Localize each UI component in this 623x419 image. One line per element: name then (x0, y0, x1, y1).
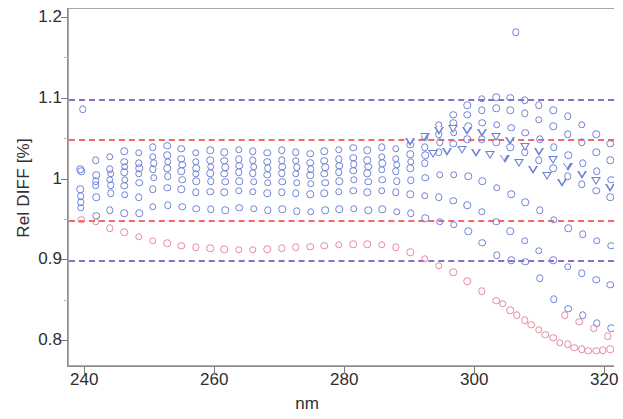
data-point-blue-circles (335, 146, 343, 154)
data-point-blue-circles (578, 181, 586, 189)
data-point-blue-circles (393, 208, 401, 216)
data-point-blue-triangles (477, 129, 487, 137)
data-point-blue-circles (121, 210, 129, 218)
data-point-blue-circles (306, 150, 314, 158)
y-minor-tick-mark (64, 219, 68, 220)
data-point-blue-circles (364, 169, 372, 177)
data-point-blue-circles (535, 156, 543, 164)
y-minor-tick-mark (64, 57, 68, 58)
data-point-blue-circles (464, 101, 472, 109)
data-point-blue-circles (236, 204, 244, 212)
data-point-red-circles (556, 339, 564, 347)
data-point-red-circles (106, 224, 114, 232)
data-point-blue-circles (264, 149, 272, 157)
x-tick-mark (604, 367, 605, 374)
data-point-blue-circles (336, 177, 344, 185)
data-point-blue-circles (550, 106, 558, 114)
data-point-blue-circles (93, 194, 101, 202)
data-point-blue-circles (378, 187, 386, 195)
data-point-blue-triangles (557, 179, 567, 187)
data-point-blue-circles (364, 189, 372, 197)
data-point-red-circles (335, 241, 343, 249)
data-point-blue-circles (421, 160, 429, 168)
data-point-blue-triangles (505, 137, 515, 145)
data-point-red-circles (306, 243, 314, 251)
data-point-blue-circles (193, 177, 201, 185)
data-point-red-circles (392, 244, 400, 252)
data-point-red-circles (163, 240, 171, 248)
data-point-blue-circles (478, 106, 486, 114)
data-point-blue-circles (292, 170, 300, 178)
data-point-blue-circles (392, 189, 400, 197)
data-point-blue-triangles (591, 177, 601, 185)
data-point-blue-circles (507, 227, 515, 235)
data-point-blue-circles (178, 185, 186, 193)
data-point-blue-circles (321, 206, 329, 214)
data-point-blue-circles (364, 178, 372, 186)
data-point-blue-triangles (528, 166, 538, 174)
data-point-blue-triangles (462, 127, 472, 135)
y-tick-mark (61, 340, 68, 341)
data-point-blue-circles (512, 29, 520, 37)
data-point-blue-circles (478, 95, 486, 103)
data-point-blue-circles (164, 173, 172, 181)
data-point-red-circles (378, 241, 386, 249)
data-point-blue-circles (293, 207, 301, 215)
data-point-blue-circles (492, 93, 500, 101)
data-point-blue-circles (221, 206, 229, 214)
data-point-blue-circles (607, 156, 614, 164)
data-point-red-circles (292, 244, 300, 252)
data-point-red-circles (478, 287, 486, 295)
data-point-blue-triangles (548, 156, 558, 164)
data-point-blue-circles (421, 215, 429, 223)
data-point-blue-triangles (563, 163, 573, 171)
data-point-blue-circles (164, 202, 172, 210)
data-point-blue-circles (121, 182, 129, 190)
y-tick-mark (61, 17, 68, 18)
data-point-red-circles (599, 346, 607, 354)
data-point-blue-circles (507, 106, 515, 114)
data-point-blue-circles (436, 139, 444, 147)
data-point-blue-circles (77, 204, 85, 212)
data-point-blue-circles (507, 190, 515, 198)
data-point-blue-circles (578, 139, 586, 147)
data-point-blue-circles (278, 178, 286, 186)
data-point-blue-circles (449, 197, 457, 205)
data-point-blue-circles (564, 263, 572, 271)
y-axis-spine (67, 8, 68, 367)
data-point-blue-triangles (534, 148, 544, 156)
data-point-blue-circles (206, 147, 214, 155)
data-point-blue-circles (507, 124, 515, 132)
data-point-blue-circles (349, 167, 357, 175)
data-point-blue-circles (536, 274, 544, 282)
data-point-red-circles (78, 216, 86, 224)
data-point-blue-circles (163, 164, 171, 172)
data-point-blue-circles (464, 173, 472, 181)
data-point-red-circles (570, 344, 578, 352)
data-point-red-circles (221, 245, 229, 253)
data-point-blue-circles (492, 218, 500, 226)
data-point-blue-circles (106, 153, 114, 161)
data-point-blue-triangles (485, 151, 495, 159)
reference-line-upper-purple-limit (69, 99, 614, 101)
data-point-blue-circles (107, 181, 115, 189)
data-point-blue-triangles (405, 138, 415, 146)
data-point-blue-circles (321, 190, 329, 198)
data-point-blue-circles (579, 231, 587, 239)
data-point-blue-circles (464, 227, 472, 235)
data-point-blue-circles (207, 177, 215, 185)
data-point-blue-circles (178, 203, 186, 211)
data-point-red-circles (499, 300, 507, 308)
data-point-blue-circles (607, 324, 614, 332)
data-point-red-circles (449, 269, 457, 277)
data-point-blue-circles (550, 143, 558, 151)
data-point-blue-circles (449, 111, 457, 119)
data-point-blue-circles (149, 143, 157, 151)
y-tick-mark (61, 259, 68, 260)
x-tick-mark (214, 367, 215, 374)
data-point-blue-circles (207, 206, 215, 214)
data-point-blue-circles (564, 131, 572, 139)
data-point-blue-circles (450, 221, 458, 229)
data-point-blue-circles (379, 206, 387, 214)
data-point-red-circles (527, 321, 535, 329)
